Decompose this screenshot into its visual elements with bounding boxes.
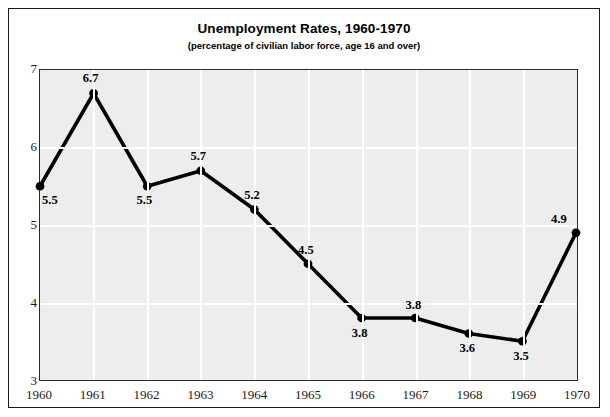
x-axis-tick-label: 1963 [170, 387, 230, 403]
x-axis-tick-label: 1960 [9, 387, 69, 403]
gridline-vertical [93, 70, 95, 380]
x-axis-tick-label: 1966 [332, 387, 392, 403]
gridline-vertical [523, 70, 525, 380]
x-axis-tick-label: 1970 [547, 387, 607, 403]
x-axis-tick-label: 1968 [439, 387, 499, 403]
data-point-label: 4.5 [298, 243, 314, 258]
gridline-vertical [200, 70, 202, 380]
y-axis-tick-label: 6 [13, 139, 37, 155]
chart-subtitle: (percentage of civilian labor force, age… [9, 40, 599, 51]
x-axis: 1960196119621963196419651966196719681969… [39, 387, 578, 407]
data-point-label: 5.5 [137, 193, 153, 208]
x-axis-tick-label: 1964 [224, 387, 284, 403]
data-point-label: 3.5 [513, 349, 529, 364]
x-axis-tick-label: 1961 [63, 387, 123, 403]
gridline-vertical [416, 70, 418, 380]
plot-area: 5.56.75.55.75.24.53.83.83.63.54.9 [39, 69, 578, 381]
data-point-label: 3.8 [406, 298, 422, 313]
data-point-label: 5.7 [190, 149, 206, 164]
data-point-marker [36, 182, 45, 191]
x-axis-tick-label: 1962 [117, 387, 177, 403]
x-axis-tick-label: 1967 [386, 387, 446, 403]
page-title: Unemployment Rates, 1960-1970 [9, 21, 599, 36]
data-point-label: 3.8 [352, 326, 368, 341]
data-point-label: 4.9 [551, 212, 567, 227]
data-point-label: 5.2 [244, 188, 260, 203]
x-axis-tick-label: 1969 [493, 387, 553, 403]
gridline-vertical [254, 70, 256, 380]
y-axis: 34567 [9, 69, 37, 381]
data-point-label: 3.6 [459, 341, 475, 356]
y-axis-tick-label: 4 [13, 295, 37, 311]
gridline-vertical [469, 70, 471, 380]
data-point-label: 6.7 [83, 71, 99, 86]
chart-figure: Unemployment Rates, 1960-1970 (percentag… [8, 8, 600, 408]
title-block: Unemployment Rates, 1960-1970 (percentag… [9, 21, 599, 51]
gridline-vertical [308, 70, 310, 380]
y-axis-tick-label: 5 [13, 217, 37, 233]
y-axis-tick-label: 7 [13, 61, 37, 77]
data-point-label: 5.5 [42, 193, 58, 208]
data-point-marker [572, 228, 581, 237]
gridline-vertical [147, 70, 149, 380]
x-axis-tick-label: 1965 [278, 387, 338, 403]
